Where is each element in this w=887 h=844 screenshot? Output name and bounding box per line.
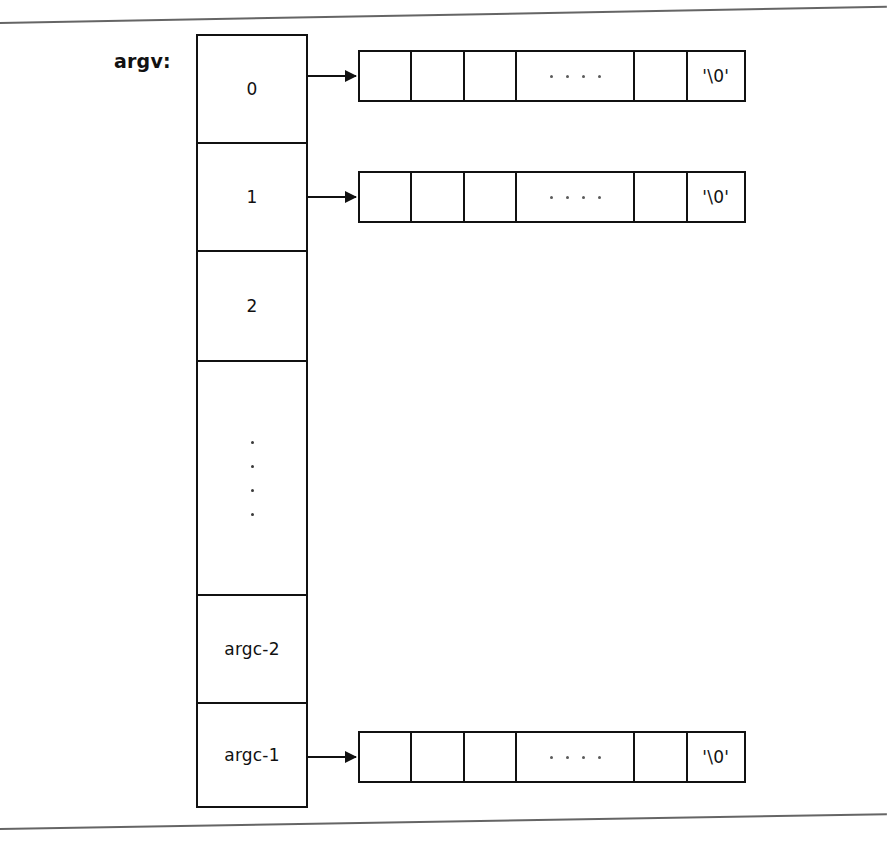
char-cell	[360, 52, 412, 100]
char-cell	[412, 173, 464, 221]
horizontal-ellipsis-icon	[550, 75, 601, 78]
argv-cell-0: 0	[198, 36, 306, 144]
page-rule-bottom	[0, 813, 887, 829]
char-cell	[360, 733, 412, 781]
pointer-arrow-argc-1	[308, 756, 356, 758]
char-cell	[412, 52, 464, 100]
string-row-1: '\0'	[358, 171, 746, 223]
argv-cell-1: 1	[198, 144, 306, 252]
char-cell	[465, 173, 517, 221]
argv-cell-1-label: 1	[246, 187, 257, 207]
char-cell-ellipsis	[517, 52, 635, 100]
vertical-ellipsis-icon	[251, 441, 254, 516]
argv-cell-ellipsis	[198, 362, 306, 596]
page-rule-top	[0, 6, 887, 24]
char-cell-nul: '\0'	[688, 733, 744, 781]
argv-cell-argc-2: argc-2	[198, 596, 306, 704]
horizontal-ellipsis-icon	[550, 756, 601, 759]
argv-cell-argc-2-label: argc-2	[224, 639, 279, 659]
char-cell	[360, 173, 412, 221]
char-cell	[465, 52, 517, 100]
string-row-argc-1: '\0'	[358, 731, 746, 783]
argv-cell-argc-1-label: argc-1	[224, 745, 279, 765]
pointer-arrow-0	[308, 75, 356, 77]
string-row-0: '\0'	[358, 50, 746, 102]
char-cell-ellipsis	[517, 733, 635, 781]
char-cell	[635, 52, 687, 100]
char-cell-nul: '\0'	[688, 52, 744, 100]
horizontal-ellipsis-icon	[550, 196, 601, 199]
pointer-arrow-1	[308, 196, 356, 198]
char-cell	[635, 173, 687, 221]
char-cell	[412, 733, 464, 781]
argv-cell-2-label: 2	[246, 296, 257, 316]
char-cell	[465, 733, 517, 781]
char-cell-nul: '\0'	[688, 173, 744, 221]
argv-diagram: argv: 0 1 2 argc-2 argc-1	[0, 0, 887, 844]
argv-cell-2: 2	[198, 252, 306, 362]
char-cell-ellipsis	[517, 173, 635, 221]
argv-label: argv:	[114, 50, 171, 72]
argv-cell-0-label: 0	[246, 79, 257, 99]
argv-cell-argc-1: argc-1	[198, 704, 306, 806]
argv-pointer-array: 0 1 2 argc-2 argc-1	[196, 34, 308, 808]
char-cell	[635, 733, 687, 781]
